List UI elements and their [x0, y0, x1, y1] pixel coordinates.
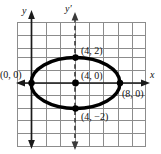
point-marker-center — [72, 80, 79, 87]
point-label-left-vertex: (0, 0) — [0, 70, 22, 80]
point-marker-top — [72, 54, 78, 60]
point-label-right-vertex: (8, 0) — [122, 89, 144, 99]
point-label-center: (4, 0) — [81, 71, 103, 81]
point-label-top: (4, 2) — [81, 46, 103, 56]
y-axis-label: y — [22, 6, 26, 16]
ellipse-figure: y y′ x (4, 2) (4, 0) (4, −2) (0, 0) (8, … — [0, 0, 161, 154]
point-label-bottom: (4, −2) — [81, 112, 108, 122]
y-prime-axis-label: y′ — [65, 4, 72, 14]
point-marker-bottom — [72, 105, 78, 111]
x-axis-label: x — [150, 70, 154, 80]
grid-lines — [17, 22, 146, 146]
point-marker-left — [28, 80, 34, 86]
point-marker-right — [117, 80, 123, 86]
